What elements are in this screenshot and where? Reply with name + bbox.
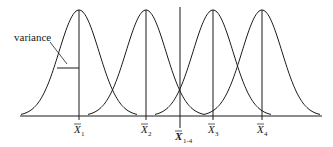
variance-label: variance bbox=[14, 31, 51, 43]
grand-mean-label: X 1-4 bbox=[174, 130, 193, 145]
distribution-diagram: variance X 1 X 2 X 3 X 4 X 1-4 bbox=[0, 0, 333, 147]
svg-text:3: 3 bbox=[215, 130, 219, 138]
svg-text:4: 4 bbox=[264, 130, 268, 138]
variance-arrow bbox=[50, 42, 67, 64]
svg-text:1: 1 bbox=[81, 130, 85, 138]
mean-label-1: X 1 bbox=[73, 123, 85, 138]
mean-label-4: X 4 bbox=[256, 123, 268, 138]
svg-text:1-4: 1-4 bbox=[183, 137, 193, 145]
mean-label-2: X 2 bbox=[140, 123, 152, 138]
svg-text:2: 2 bbox=[148, 130, 152, 138]
svg-text:X: X bbox=[174, 130, 183, 142]
mean-label-3: X 3 bbox=[207, 123, 219, 138]
